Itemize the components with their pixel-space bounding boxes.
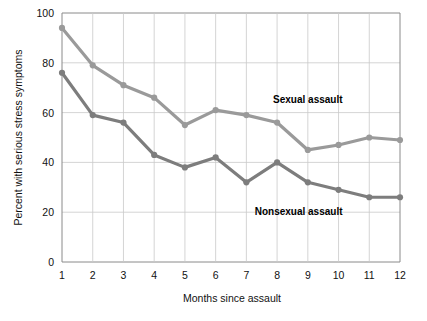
y-axis-tick-label: 20 [42,206,54,218]
x-axis-tick-label: 12 [394,269,406,281]
series-data-point [213,154,219,160]
series-data-point [151,152,157,158]
x-axis-tick-label: 4 [151,269,157,281]
x-axis-tick-label: 3 [121,269,127,281]
x-axis-title: Months since assault [183,292,281,304]
series-data-point [59,70,65,76]
x-axis-tick-label: 8 [274,269,280,281]
series-data-point [397,137,403,143]
series-data-point [397,194,403,200]
series-data-point [274,119,280,125]
series-data-point [335,142,341,148]
y-axis-title: Percent with serious stress symptoms [12,49,24,225]
chart-container: 020406080100123456789101112Months since … [0,0,427,321]
series-data-point [335,187,341,193]
series-data-point [305,147,311,153]
series-data-point [120,119,126,125]
series-data-point [305,179,311,185]
line-chart: 020406080100123456789101112Months since … [0,0,427,321]
y-axis-tick-label: 40 [42,156,54,168]
series-label: Nonsexual assault [255,206,343,217]
x-axis-tick-label: 7 [243,269,249,281]
series-data-point [151,95,157,101]
x-axis-tick-label: 5 [182,269,188,281]
x-axis-tick-label: 9 [305,269,311,281]
series-data-point [120,82,126,88]
series-label: Sexual assault [273,94,343,105]
series-data-point [243,179,249,185]
x-axis-tick-label: 1 [59,269,65,281]
y-axis-tick-label: 60 [42,107,54,119]
x-axis-tick-label: 6 [213,269,219,281]
series-data-point [90,112,96,118]
series-data-point [59,25,65,31]
y-axis-tick-label: 100 [36,7,54,19]
plot-area [62,13,400,262]
series-data-point [243,112,249,118]
y-axis-tick-label: 0 [48,256,54,268]
x-axis-tick-label: 11 [364,269,375,281]
x-axis-tick-label: 10 [333,269,345,281]
series-data-point [366,194,372,200]
series-data-point [182,164,188,170]
y-axis-tick-label: 80 [42,57,54,69]
series-data-point [366,134,372,140]
x-axis-tick-label: 2 [90,269,96,281]
series-data-point [90,62,96,68]
series-data-point [213,107,219,113]
series-data-point [274,159,280,165]
series-data-point [182,122,188,128]
